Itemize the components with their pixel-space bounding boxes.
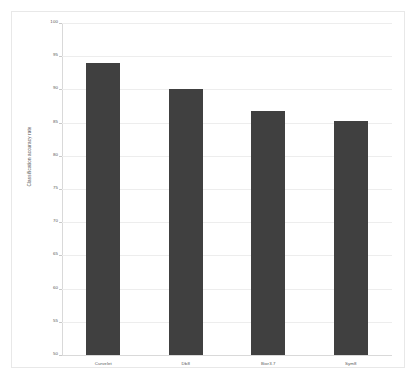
y-tick-label: 60	[53, 285, 58, 290]
y-tick-label: 100	[50, 19, 58, 24]
y-tick-label: 75	[53, 185, 58, 190]
bar-chart-figure: Classification accuracy rate 10095908580…	[11, 11, 405, 368]
x-axis-label: Bior3.7	[227, 361, 310, 366]
bars-layer	[62, 23, 392, 355]
x-axis-category-labels: CurveletDb8Bior3.7Sym8	[62, 361, 392, 373]
y-tick-mark	[59, 355, 62, 356]
x-axis-label: Curvelet	[62, 361, 145, 366]
y-tick-label: 65	[53, 251, 58, 256]
y-tick-label: 50	[53, 351, 58, 356]
x-axis-label: Sym8	[310, 361, 393, 366]
y-tick-label: 80	[53, 152, 58, 157]
bar-slot	[62, 23, 145, 355]
y-tick-label: 70	[53, 218, 58, 223]
x-axis-label: Db8	[145, 361, 228, 366]
bar[interactable]	[86, 63, 120, 355]
plot-area: 10095908580757065605550	[51, 23, 392, 355]
bar-slot	[145, 23, 228, 355]
y-axis-title: Classification accuracy rate	[27, 97, 32, 217]
y-tick-label: 90	[53, 85, 58, 90]
bar[interactable]	[169, 89, 203, 355]
y-tick-label: 95	[53, 52, 58, 57]
bar[interactable]	[334, 121, 368, 355]
y-tick-label: 55	[53, 318, 58, 323]
bar-slot	[227, 23, 310, 355]
y-tick-label: 85	[53, 119, 58, 124]
gridline	[62, 355, 392, 356]
bar-slot	[310, 23, 393, 355]
bar[interactable]	[251, 111, 285, 355]
